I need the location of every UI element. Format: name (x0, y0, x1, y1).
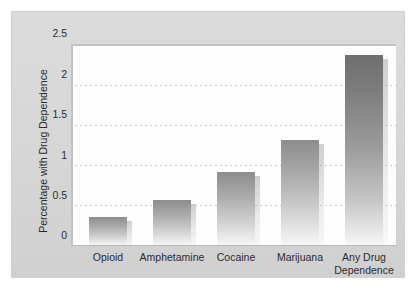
bar-marijuana (281, 140, 319, 246)
x-tick-any-drug-dependence-line2: Dependence (317, 264, 411, 277)
x-tick-any-drug-dependence-line1: Any Drug (317, 251, 411, 264)
bar-opioid (89, 217, 127, 247)
y-tick-2.5: 2.5 (19, 28, 67, 39)
y-tick-2: 2 (19, 69, 67, 80)
plot-area (71, 44, 396, 246)
y-tick-0: 0 (19, 230, 67, 241)
x-tick-any-drug-dependence: Any Drug Dependence (317, 251, 411, 276)
bar-any-drug-dependence (345, 55, 383, 246)
plot-inner (73, 46, 396, 246)
x-axis-tick-labels: Opioid Amphetamine Cocaine Marijuana Any… (71, 251, 397, 289)
y-tick-0.5: 0.5 (19, 190, 67, 201)
bar-amphetamine (153, 200, 191, 246)
chart-panel: Percentage with Drug Dependence 2.5 2 1.… (11, 11, 405, 278)
y-axis-tick-labels: 2.5 2 1.5 1 0.5 0 (11, 11, 67, 289)
bar-chart-figure: Percentage with Drug Dependence 2.5 2 1.… (0, 0, 416, 289)
y-tick-1: 1 (19, 150, 67, 161)
y-tick-1.5: 1.5 (19, 109, 67, 120)
x-axis-line (71, 245, 397, 246)
bar-cocaine (217, 172, 255, 246)
